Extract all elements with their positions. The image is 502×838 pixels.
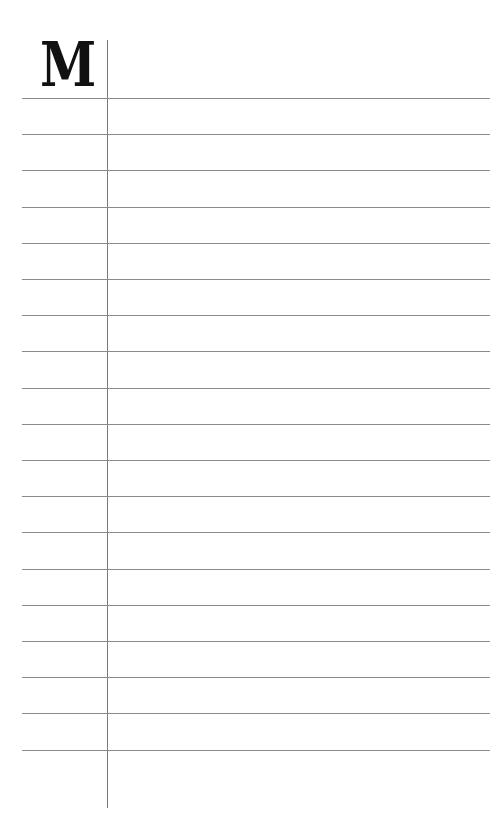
ruled-line [22, 532, 490, 533]
ruled-line [22, 315, 490, 316]
ruled-line [22, 677, 490, 678]
ruled-line [22, 243, 490, 244]
ruled-line [22, 170, 490, 171]
ruled-line [22, 569, 490, 570]
ruled-line [22, 641, 490, 642]
ruled-line [22, 98, 490, 99]
notebook-page: M [0, 0, 502, 838]
ruled-line [22, 496, 490, 497]
ruled-line [22, 388, 490, 389]
ruled-line [22, 605, 490, 606]
ruled-line [22, 279, 490, 280]
initial-letter: M [40, 28, 96, 101]
ruled-line [22, 134, 490, 135]
ruled-line [22, 750, 490, 751]
ruled-line [22, 351, 490, 352]
ruled-line [22, 713, 490, 714]
ruled-line [22, 460, 490, 461]
ruled-line [22, 207, 490, 208]
ruled-line [22, 424, 490, 425]
monogram-initial: M [40, 30, 81, 100]
